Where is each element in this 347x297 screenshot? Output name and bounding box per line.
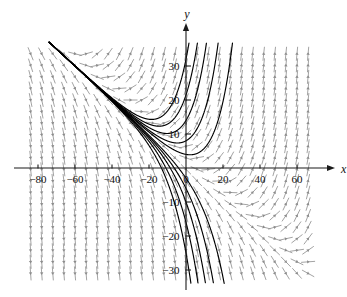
y-tick-label: 10 bbox=[169, 128, 181, 140]
y-tick-label: −10 bbox=[162, 196, 180, 208]
y-tick-label: −30 bbox=[162, 264, 180, 276]
x-tick-label: −80 bbox=[29, 173, 47, 185]
direction-field-figure: −80−60−40−200204060302010−10−20−30xy bbox=[0, 0, 347, 297]
x-tick-label: −20 bbox=[140, 173, 158, 185]
x-tick-label: −60 bbox=[66, 173, 84, 185]
y-tick-label: 30 bbox=[169, 60, 181, 72]
x-axis-label: x bbox=[340, 162, 347, 176]
plot-canvas: −80−60−40−200204060302010−10−20−30xy bbox=[0, 0, 347, 297]
y-axis-label: y bbox=[183, 7, 190, 21]
x-tick-label: −40 bbox=[103, 173, 121, 185]
x-tick-label: 20 bbox=[218, 173, 230, 185]
y-tick-label: 20 bbox=[169, 94, 181, 106]
x-tick-label: 40 bbox=[255, 173, 267, 185]
x-tick-label: 0 bbox=[183, 173, 189, 185]
x-tick-label: 60 bbox=[292, 173, 304, 185]
y-tick-label: −20 bbox=[162, 230, 180, 242]
